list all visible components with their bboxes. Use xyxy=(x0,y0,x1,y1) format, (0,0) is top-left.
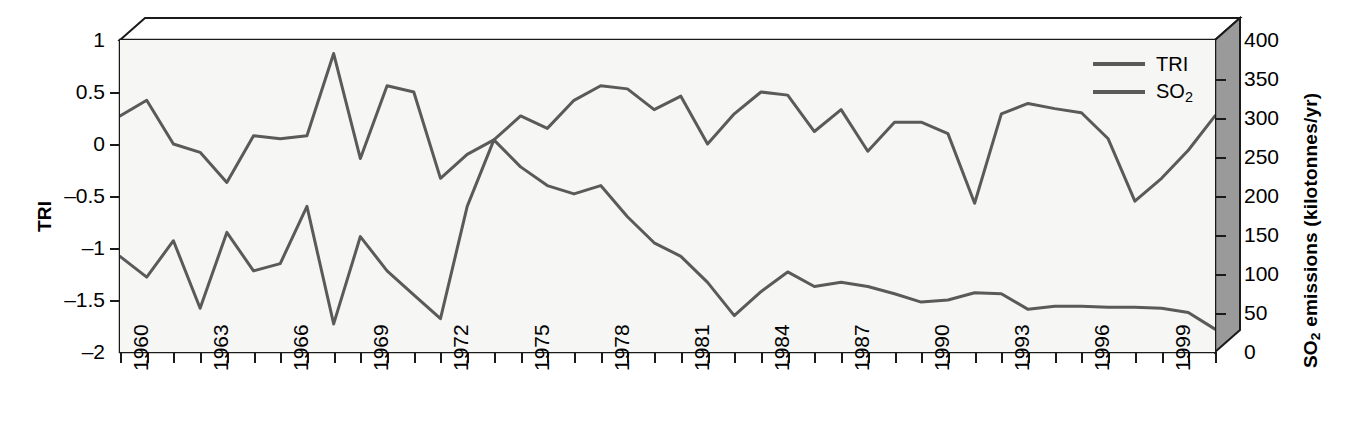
x-axis-tick xyxy=(975,352,977,363)
right-axis-tick xyxy=(1215,118,1226,120)
x-axis-tick xyxy=(1215,352,1217,363)
x-axis-tick xyxy=(921,352,923,363)
right-axis-tick-label: 350 xyxy=(1244,68,1279,89)
right-axis-tick-label: 250 xyxy=(1244,146,1279,167)
left-axis-tick-label: 1 xyxy=(93,29,105,50)
x-axis-tick xyxy=(761,352,763,363)
x-axis-tick xyxy=(734,352,736,363)
right-axis-tick xyxy=(1215,313,1226,315)
x-axis-tick xyxy=(173,352,175,363)
x-axis-tick-label: 1993 xyxy=(1011,324,1032,371)
right-axis-tick-label: 400 xyxy=(1244,29,1279,50)
x-axis-tick-label: 1999 xyxy=(1172,324,1193,371)
left-axis-tick xyxy=(110,248,120,250)
series-line-tri xyxy=(120,54,1215,204)
right-axis-tick-label: 100 xyxy=(1244,263,1279,284)
x-axis-tick-label: 1960 xyxy=(130,324,151,371)
x-axis-tick xyxy=(1055,352,1057,363)
left-axis-tick xyxy=(110,144,120,146)
x-axis-tick-label: 1981 xyxy=(691,324,712,371)
x-axis-tick xyxy=(574,352,576,363)
x-axis-tick-label: 1972 xyxy=(450,324,471,371)
right-axis-tick-label: 0 xyxy=(1244,341,1256,362)
x-axis-tick xyxy=(841,352,843,363)
legend-label-so2: SO2 xyxy=(1156,81,1193,104)
series-line-so2 xyxy=(120,140,1215,329)
x-axis-tick xyxy=(280,352,282,363)
chart-root: TRI SO2 TRI SO2 emissions (kilotonnes/yr… xyxy=(0,0,1349,434)
x-axis-tick xyxy=(120,352,122,363)
right-axis-tick xyxy=(1215,79,1226,81)
chart-legend: TRI SO2 xyxy=(1093,50,1193,106)
left-axis-tick xyxy=(110,300,120,302)
x-axis-tick xyxy=(360,352,362,363)
frame-right-face xyxy=(1215,18,1240,352)
x-axis-tick xyxy=(654,352,656,363)
left-axis-tick-label: –1 xyxy=(82,237,105,258)
legend-item-so2: SO2 xyxy=(1093,78,1193,106)
x-axis-tick xyxy=(1001,352,1003,363)
right-axis-title-subscript: 2 xyxy=(1308,332,1323,340)
x-axis-tick-label: 1978 xyxy=(611,324,632,371)
left-axis-tick-label: –2 xyxy=(82,341,105,362)
right-axis-title: SO2 emissions (kilotonnes/yr) xyxy=(1300,93,1323,368)
right-axis-tick-label: 50 xyxy=(1244,302,1267,323)
x-axis-tick-label: 1963 xyxy=(210,324,231,371)
frame-top-face xyxy=(120,18,1240,40)
left-axis-tick-label: –0.5 xyxy=(64,185,105,206)
x-axis-tick xyxy=(414,352,416,363)
x-axis-tick xyxy=(1081,352,1083,363)
left-axis-tick-label: 0.5 xyxy=(76,81,105,102)
x-axis-tick-label: 1975 xyxy=(531,324,552,371)
x-axis-tick xyxy=(334,352,336,363)
x-axis-tick xyxy=(1135,352,1137,363)
x-axis-tick xyxy=(494,352,496,363)
right-axis-tick-label: 300 xyxy=(1244,107,1279,128)
left-axis-tick-label: 0 xyxy=(93,133,105,154)
x-axis-tick-label: 1984 xyxy=(771,324,792,371)
right-axis-tick xyxy=(1215,274,1226,276)
right-axis-tick-label: 200 xyxy=(1244,185,1279,206)
left-axis-title: TRI xyxy=(34,201,56,232)
legend-swatch-tri xyxy=(1093,62,1145,66)
legend-swatch-so2 xyxy=(1093,90,1145,94)
x-axis-tick xyxy=(521,352,523,363)
x-axis-tick xyxy=(1162,352,1164,363)
x-axis-tick xyxy=(681,352,683,363)
data-lines xyxy=(120,40,1215,352)
legend-label-so2-subscript: 2 xyxy=(1185,88,1193,104)
x-axis-tick xyxy=(254,352,256,363)
legend-item-tri: TRI xyxy=(1093,50,1193,78)
legend-label-tri: TRI xyxy=(1156,54,1188,74)
x-axis-tick-label: 1969 xyxy=(370,324,391,371)
x-axis-tick xyxy=(895,352,897,363)
x-axis-tick-label: 1990 xyxy=(931,324,952,371)
x-axis-tick xyxy=(814,352,816,363)
x-axis-tick-label: 1987 xyxy=(851,324,872,371)
right-axis-tick-label: 150 xyxy=(1244,224,1279,245)
right-axis-tick xyxy=(1215,157,1226,159)
left-axis-tick-label: –1.5 xyxy=(64,289,105,310)
left-axis-tick xyxy=(110,196,120,198)
right-axis-tick xyxy=(1215,235,1226,237)
x-axis-tick xyxy=(601,352,603,363)
x-axis-tick xyxy=(440,352,442,363)
right-axis-tick xyxy=(1215,196,1226,198)
x-axis-tick-label: 1996 xyxy=(1091,324,1112,371)
left-axis-tick xyxy=(110,92,120,94)
plot-area xyxy=(120,40,1215,352)
x-axis-tick-label: 1966 xyxy=(290,324,311,371)
x-axis-tick xyxy=(200,352,202,363)
